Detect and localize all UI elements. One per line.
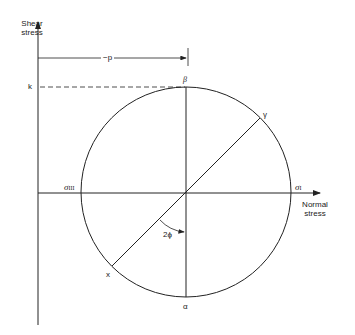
x-label: x bbox=[106, 270, 110, 279]
shear-stress-label: Shear stress bbox=[14, 19, 50, 37]
sigma-i-subscript: I bbox=[299, 185, 301, 191]
normal-label-line2: stress bbox=[295, 209, 335, 218]
mohr-circle-diagram: Shear stress Normal stress −p k β γ σIII… bbox=[0, 0, 355, 335]
alpha-label: α bbox=[183, 302, 188, 311]
diagram-graphics bbox=[0, 0, 355, 335]
angle-2phi-label: 2ϕ bbox=[163, 230, 172, 239]
sigma-iii-label: σIII bbox=[64, 183, 74, 193]
sigma-iii-subscript: III bbox=[68, 185, 74, 191]
k-label: k bbox=[28, 82, 32, 91]
shear-label-line2: stress bbox=[14, 28, 50, 37]
gamma-label: γ bbox=[263, 110, 267, 119]
normal-stress-label: Normal stress bbox=[295, 200, 335, 218]
p-label: −p bbox=[101, 53, 114, 62]
beta-label: β bbox=[183, 75, 187, 84]
normal-label-line1: Normal bbox=[295, 200, 335, 209]
sigma-i-label: σI bbox=[295, 183, 301, 193]
shear-label-line1: Shear bbox=[14, 19, 50, 28]
